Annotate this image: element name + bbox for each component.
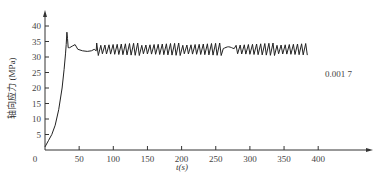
y-tick-label: 40: [32, 21, 42, 31]
y-axis-arrow-icon: [43, 10, 47, 17]
y-tick-label: 35: [32, 37, 42, 47]
y-tick-label: 5: [37, 130, 42, 140]
x-tick-label: 400: [311, 154, 325, 164]
x-tick-label: 0: [33, 154, 38, 164]
y-tick-label: 20: [32, 83, 42, 93]
axes: [43, 10, 373, 152]
x-axis-arrow-icon: [366, 148, 373, 152]
x-tick-label: 250: [209, 154, 223, 164]
stress-time-chart: 510152025303540 050100150200250300350400…: [0, 0, 387, 188]
stress-curve: [45, 32, 307, 147]
x-axis-title: t(s): [176, 162, 188, 172]
x-tick-label: 350: [277, 154, 291, 164]
y-tick-label: 10: [32, 114, 42, 124]
x-tick-label: 100: [107, 154, 121, 164]
x-tick-label: 150: [141, 154, 155, 164]
y-tick-label: 30: [32, 52, 42, 62]
x-tick-label: 300: [243, 154, 257, 164]
curve-label: 0.001 7: [325, 69, 353, 79]
y-tick-label: 25: [32, 68, 42, 78]
y-tick-label: 15: [32, 99, 42, 109]
x-tick-label: 50: [75, 154, 85, 164]
y-ticks: 510152025303540: [32, 21, 49, 140]
y-axis-title: 轴向应力 (MPa): [6, 57, 17, 118]
